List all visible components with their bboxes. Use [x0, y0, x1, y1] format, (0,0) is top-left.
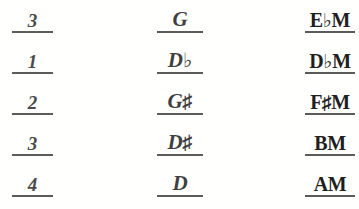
number-blank[interactable]: 2	[12, 89, 53, 115]
note-letter: G	[167, 89, 182, 113]
note-letter: D	[167, 130, 182, 154]
note-blank[interactable]: D	[157, 171, 203, 197]
chord-quality: M	[331, 91, 350, 113]
number-answer: 4	[28, 175, 38, 194]
chord-quality: M	[332, 50, 351, 72]
note-accidental: ♯	[183, 90, 193, 112]
note-answer: D	[172, 173, 187, 194]
note-letter: G	[172, 7, 187, 31]
note-answer: G	[172, 9, 187, 30]
chord-letter: E	[310, 9, 323, 31]
chord-blank[interactable]: AM	[305, 171, 355, 197]
chord-answer: F♯M	[310, 92, 350, 112]
answer-sheet: 3 G E♭M 1 D♭ D♭M 2 G♯ F♯M 3	[0, 0, 359, 209]
note-letter: D	[172, 171, 187, 195]
number-blank[interactable]: 1	[12, 48, 53, 74]
note-blank[interactable]: G♯	[157, 89, 203, 115]
chord-answer: E♭M	[310, 10, 350, 30]
chord-blank[interactable]: E♭M	[305, 7, 355, 33]
chord-blank[interactable]: F♯M	[305, 89, 355, 115]
chord-quality: M	[328, 173, 347, 195]
note-blank[interactable]: D♭	[157, 48, 203, 74]
answer-row: 2 G♯ F♯M	[0, 82, 359, 123]
chord-letter: A	[314, 173, 328, 195]
chord-answer: BM	[314, 133, 346, 153]
number-blank[interactable]: 4	[12, 171, 53, 197]
chord-quality: M	[327, 132, 346, 154]
chord-accidental: ♯	[322, 92, 331, 113]
chord-accidental: ♭	[323, 51, 332, 72]
chord-blank[interactable]: BM	[305, 130, 355, 156]
number-blank[interactable]: 3	[12, 130, 53, 156]
note-accidental: ♭	[183, 49, 192, 71]
chord-quality: M	[332, 9, 351, 31]
note-blank[interactable]: G	[157, 7, 203, 33]
answer-row: 4 D AM	[0, 164, 359, 205]
chord-answer: AM	[314, 174, 347, 194]
chord-letter: B	[314, 132, 327, 154]
chord-letter: F	[310, 91, 322, 113]
chord-accidental: ♭	[323, 10, 332, 31]
note-answer: D♭	[168, 50, 193, 71]
note-answer: D♯	[167, 132, 192, 153]
number-answer: 1	[28, 52, 38, 71]
answer-row: 3 G E♭M	[0, 0, 359, 41]
chord-blank[interactable]: D♭M	[305, 48, 355, 74]
note-accidental: ♯	[183, 131, 193, 153]
number-blank[interactable]: 3	[12, 7, 53, 33]
number-answer: 3	[28, 134, 38, 153]
chord-answer: D♭M	[309, 51, 350, 71]
number-answer: 2	[28, 93, 38, 112]
answer-row: 3 D♯ BM	[0, 123, 359, 164]
note-letter: D	[168, 48, 183, 72]
answer-row: 1 D♭ D♭M	[0, 41, 359, 82]
note-answer: G♯	[167, 91, 192, 112]
chord-letter: D	[309, 50, 323, 72]
note-blank[interactable]: D♯	[157, 130, 203, 156]
number-answer: 3	[28, 11, 38, 30]
